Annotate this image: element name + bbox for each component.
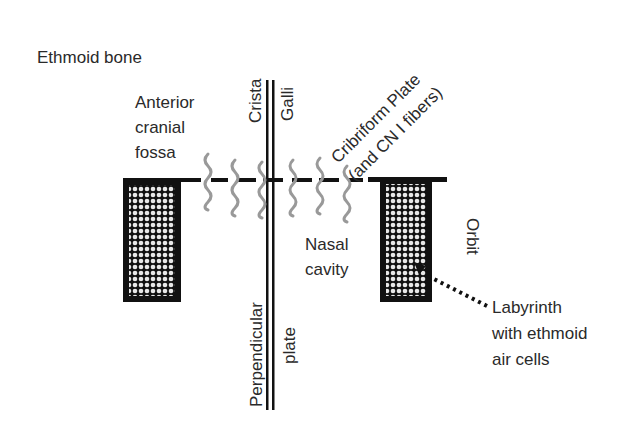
diagram-title: Ethmoid bone <box>37 46 142 70</box>
anterior-cranial-fossa-line1: Anterior <box>135 90 195 115</box>
cn-i-fibers <box>205 154 350 222</box>
labyrinth-line1: Labyrinth <box>492 295 587 321</box>
labyrinth-line2: with ethmoid <box>492 321 587 347</box>
anterior-cranial-fossa-line3: fossa <box>135 140 195 165</box>
orbit-label: Orbit <box>460 218 484 255</box>
nasal-cavity-line1: Nasal <box>305 232 348 257</box>
labyrinth-label: Labyrinth with ethmoid air cells <box>492 295 587 373</box>
cribriform-plate <box>211 178 363 182</box>
anterior-cranial-fossa-line2: cranial <box>135 115 195 140</box>
nasal-cavity-line2: cavity <box>305 257 348 282</box>
plate-label: plate <box>278 327 302 364</box>
crista-label: Crista <box>244 79 268 123</box>
left-labyrinth <box>123 178 201 302</box>
anterior-cranial-fossa-label: Anterior cranial fossa <box>135 90 195 165</box>
right-labyrinth <box>368 177 447 302</box>
nasal-cavity-label: Nasal cavity <box>305 232 348 282</box>
perpendicular-label: Perpendicular <box>245 302 269 407</box>
galli-label: Galli <box>276 87 300 121</box>
labyrinth-line3: air cells <box>492 347 587 373</box>
